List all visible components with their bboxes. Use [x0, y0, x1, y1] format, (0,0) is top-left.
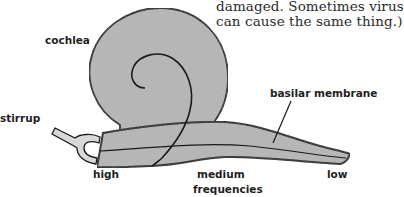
label-stirrup: stirrup	[0, 112, 40, 124]
cochlea-shell	[89, 8, 228, 132]
stirrup	[52, 128, 100, 164]
label-basilar-membrane: basilar membrane	[270, 87, 377, 99]
label-cochlea: cochlea	[45, 34, 90, 46]
label-frequencies: frequencies	[193, 183, 263, 195]
label-low: low	[327, 168, 348, 180]
label-high: high	[93, 168, 119, 180]
label-medium: medium	[197, 168, 245, 180]
